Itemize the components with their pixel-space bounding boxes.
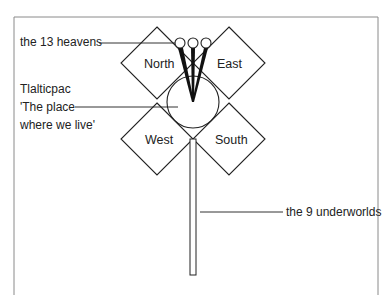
west-label: West [145, 133, 174, 147]
north-label: North [144, 57, 175, 71]
south-label: South [215, 133, 248, 147]
heaven-circle-left [175, 38, 185, 48]
heaven-circle-right [201, 38, 211, 48]
underworlds-label: the 9 underworlds [286, 205, 381, 219]
heaven-circle-middle [188, 38, 198, 48]
aztec-cosmos-diagram: North East West South the 13 heavens Tla… [0, 0, 390, 295]
tlalticpac-label-line1: Tlalticpac [20, 82, 71, 96]
tlalticpac-label-line2: 'The place [20, 100, 75, 114]
tlalticpac-label-line3: where we live' [19, 118, 95, 132]
heavens-label: the 13 heavens [20, 35, 102, 49]
east-label: East [217, 57, 243, 71]
world-tree-pole [190, 139, 196, 275]
